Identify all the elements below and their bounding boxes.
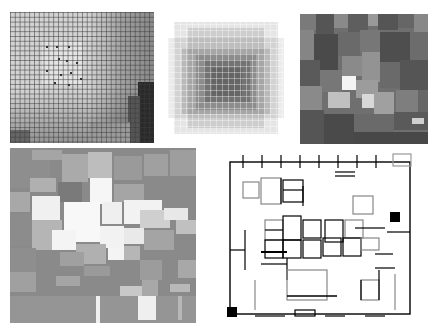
bright-tile xyxy=(342,76,356,90)
tile xyxy=(354,132,428,144)
bright-tile xyxy=(102,202,122,224)
tile xyxy=(300,60,320,86)
filled-block xyxy=(390,212,400,222)
bright-tile xyxy=(108,248,124,260)
grid-overlay xyxy=(10,12,154,143)
tile xyxy=(412,118,424,124)
tile xyxy=(334,14,348,28)
tile xyxy=(400,60,428,90)
tile xyxy=(368,14,378,26)
marker xyxy=(66,60,68,62)
tile xyxy=(396,90,418,112)
light-mosaic-panel xyxy=(10,148,196,323)
tile xyxy=(30,178,56,192)
marker xyxy=(70,72,72,74)
tile xyxy=(300,30,314,60)
tile xyxy=(10,248,36,272)
tile xyxy=(360,30,380,52)
tile xyxy=(10,192,30,212)
tile xyxy=(324,114,354,144)
marker xyxy=(56,46,58,48)
marker xyxy=(76,62,78,64)
tile xyxy=(178,260,196,278)
marker xyxy=(58,58,60,60)
tile xyxy=(170,150,196,176)
tile xyxy=(10,214,32,246)
marker xyxy=(46,46,48,48)
floorplan-panel xyxy=(225,150,417,324)
grid-overlay xyxy=(168,18,284,138)
marker xyxy=(60,74,62,76)
tile xyxy=(10,272,36,292)
tile xyxy=(60,252,84,266)
dark-mosaic-panel xyxy=(300,14,428,144)
tile xyxy=(144,154,168,176)
filled-block xyxy=(227,307,237,317)
tile xyxy=(84,266,110,276)
tile xyxy=(398,14,414,28)
tile xyxy=(10,296,196,323)
tile xyxy=(300,86,322,110)
tile xyxy=(342,56,362,76)
bright-tile xyxy=(52,230,76,250)
tile xyxy=(338,32,360,56)
tile xyxy=(316,14,334,34)
tile xyxy=(124,246,140,260)
tile xyxy=(32,150,62,160)
tile xyxy=(320,70,342,92)
tile xyxy=(140,260,162,280)
bright-tile xyxy=(138,296,156,320)
tile xyxy=(300,14,316,30)
tile xyxy=(378,14,398,30)
tile xyxy=(164,208,188,220)
gridded-gradient-panel xyxy=(10,12,154,143)
marker xyxy=(54,82,56,84)
tile xyxy=(414,14,428,32)
tile xyxy=(88,152,112,178)
tile xyxy=(58,182,82,202)
floorplan-drawing xyxy=(225,150,417,324)
marker xyxy=(68,84,70,86)
tile xyxy=(354,114,394,132)
tile xyxy=(380,62,400,88)
tile xyxy=(380,32,410,62)
tile xyxy=(62,154,88,182)
tile xyxy=(300,110,324,144)
marker xyxy=(46,70,48,72)
tile xyxy=(362,52,380,82)
marker xyxy=(80,78,82,80)
bright-tile xyxy=(32,196,60,220)
tile xyxy=(114,156,142,180)
tile xyxy=(170,284,190,292)
bright-tile xyxy=(90,178,112,204)
tile xyxy=(178,296,182,320)
marker xyxy=(68,46,70,48)
tile xyxy=(144,230,174,250)
blurred-blob-panel xyxy=(168,18,284,138)
tile xyxy=(176,220,196,234)
tile xyxy=(418,90,428,112)
bright-strip xyxy=(96,296,100,323)
tile xyxy=(56,276,80,286)
tile xyxy=(410,32,428,60)
tile xyxy=(328,92,350,108)
bright-tile xyxy=(124,228,144,244)
